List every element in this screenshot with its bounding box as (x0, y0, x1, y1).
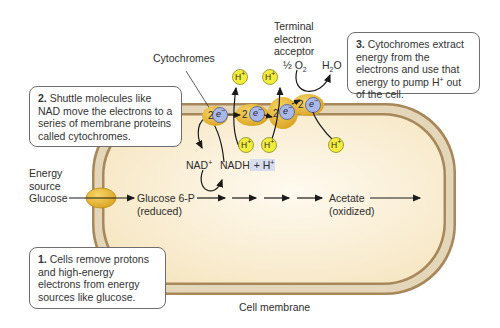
electron-count-1: 2 (208, 110, 214, 122)
nad-plus-label: NAD+ (186, 159, 212, 171)
cytochromes-label: Cytochromes (153, 52, 215, 64)
proton-label: H+ (265, 71, 275, 83)
proton-label: H+ (264, 139, 274, 151)
oxidized-label: (oxidized) (329, 205, 375, 217)
electron-count-3: 2 (273, 108, 279, 120)
proton-label: H+ (241, 139, 251, 151)
electron-label-4: e− (309, 98, 318, 110)
electron-label-2: e− (253, 107, 262, 119)
oxygen-label: ½ O2 (283, 59, 307, 71)
electron-label-3: e− (283, 105, 292, 117)
nadh-label: NADH + H+ (220, 159, 275, 171)
step-2-callout: 2. Shuttle molecules like NAD move the e… (29, 86, 182, 147)
terminal-acceptor-label: Terminal electron acceptor (274, 20, 314, 58)
electron-label-1: e− (216, 108, 225, 120)
proton-label: H+ (331, 139, 341, 151)
acetate-label: Acetate (329, 192, 365, 204)
step-1-callout: 1. Cells remove protons and high-energy … (29, 247, 166, 309)
electron-count-4: 2 (298, 99, 304, 111)
glucose-label: Glucose (29, 192, 68, 204)
step-3-callout: 3. Cytochromes extract energy from the e… (347, 32, 480, 94)
cell-membrane-label: Cell membrane (239, 301, 310, 313)
energy-source-label: Energy source (29, 167, 62, 192)
proton-label: H+ (235, 71, 245, 83)
water-label: H2O (322, 59, 342, 71)
reduced-label: (reduced) (137, 205, 182, 217)
glucose-6p-label: Glucose 6-P (137, 192, 195, 204)
electron-count-2: 2 (242, 109, 248, 121)
